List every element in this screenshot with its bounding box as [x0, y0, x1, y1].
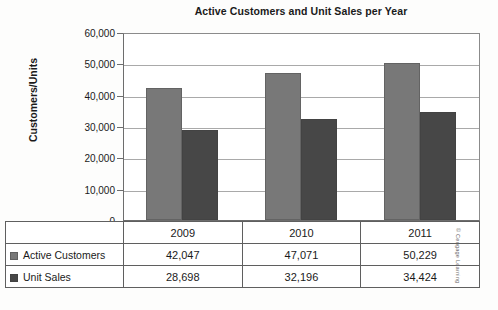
legend-item-label: Unit Sales — [23, 271, 71, 283]
column-header-2009: 2009 — [123, 222, 242, 244]
gridline — [124, 65, 479, 66]
cell-active-customers-2011: 50,229 — [361, 244, 480, 266]
cell-active-customers-2010: 47,071 — [242, 244, 361, 266]
bar-unit-sales-2010 — [301, 119, 337, 220]
bar-unit-sales-2009 — [182, 130, 218, 220]
chart-title: Active Customers and Unit Sales per Year — [122, 5, 480, 17]
bar-active-customers-2010 — [265, 73, 301, 220]
cell-unit-sales-2011: 34,424 — [361, 266, 480, 288]
column-header-2011: 2011 — [361, 222, 480, 244]
cell-unit-sales-2009: 28,698 — [123, 266, 242, 288]
bar-unit-sales-2011 — [420, 112, 456, 220]
legend-swatch-icon — [10, 274, 18, 282]
bar-active-customers-2009 — [146, 88, 182, 220]
legend-item-active-customers[interactable]: Active Customers — [6, 244, 124, 266]
y-axis-tick-label: 60,000 — [35, 28, 115, 39]
bar-active-customers-2011 — [384, 63, 420, 220]
table-header-row: 200920102011 — [6, 222, 480, 244]
y-axis-tick-label: 30,000 — [35, 122, 115, 133]
table-row: Active Customers42,04747,07150,229 — [6, 244, 480, 266]
cell-unit-sales-2010: 32,196 — [242, 266, 361, 288]
plot-area — [123, 33, 480, 221]
legend-swatch-icon — [10, 252, 18, 260]
legend-item-unit-sales[interactable]: Unit Sales — [6, 266, 124, 288]
cell-active-customers-2009: 42,047 — [123, 244, 242, 266]
table-corner-spacer — [6, 222, 124, 244]
y-axis-tick-label: 10,000 — [35, 184, 115, 195]
legend-item-label: Active Customers — [23, 249, 105, 261]
y-axis-tick-label: 50,000 — [35, 59, 115, 70]
chart-figure: Active Customers and Unit Sales per Year… — [0, 0, 498, 310]
y-axis-tick-label: 20,000 — [35, 153, 115, 164]
column-header-2010: 2010 — [242, 222, 361, 244]
copyright-credit: © Cengage Learning — [455, 228, 461, 308]
y-axis-tick-label: 40,000 — [35, 90, 115, 101]
table-row: Unit Sales28,69832,19634,424 — [6, 266, 480, 288]
data-table: 200920102011Active Customers42,04747,071… — [5, 221, 480, 288]
